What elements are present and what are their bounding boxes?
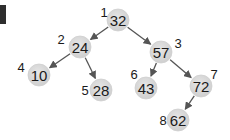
node-value: 43 bbox=[138, 80, 155, 97]
tree-node: 321 bbox=[100, 5, 129, 32]
node-index-label: 2 bbox=[57, 32, 64, 47]
node-index-label: 1 bbox=[100, 5, 107, 20]
node-value: 32 bbox=[110, 12, 127, 29]
edge-arrow bbox=[128, 27, 151, 44]
tree-canvas: 321242573104285436727628 bbox=[0, 0, 230, 140]
node-value: 10 bbox=[31, 67, 48, 84]
node-index-label: 4 bbox=[17, 60, 24, 75]
node-value: 62 bbox=[170, 112, 187, 129]
node-index-label: 8 bbox=[159, 113, 166, 128]
node-value: 28 bbox=[93, 82, 110, 99]
tree-node: 242 bbox=[57, 32, 91, 59]
edge-arrow bbox=[91, 27, 109, 40]
node-value: 57 bbox=[153, 44, 170, 61]
node-index-label: 7 bbox=[210, 67, 217, 82]
node-index-label: 3 bbox=[174, 36, 181, 51]
edge-arrow bbox=[85, 58, 95, 79]
edge-arrow bbox=[185, 96, 194, 109]
heap-tree-diagram: 321242573104285436727628 bbox=[0, 0, 230, 140]
tree-node: 285 bbox=[81, 79, 112, 101]
edge-arrow bbox=[170, 60, 191, 78]
node-value: 72 bbox=[193, 78, 210, 95]
node-value: 24 bbox=[72, 39, 89, 56]
tree-node: 573 bbox=[150, 36, 182, 64]
tree-node: 727 bbox=[190, 67, 218, 98]
edge-arrow bbox=[50, 54, 70, 68]
nodes-layer: 321242573104285436727628 bbox=[17, 5, 217, 132]
tree-node: 628 bbox=[159, 109, 189, 131]
node-index-label: 5 bbox=[81, 83, 88, 98]
tree-node: 104 bbox=[17, 60, 50, 87]
edge-arrow bbox=[151, 63, 156, 76]
node-index-label: 6 bbox=[130, 67, 137, 82]
